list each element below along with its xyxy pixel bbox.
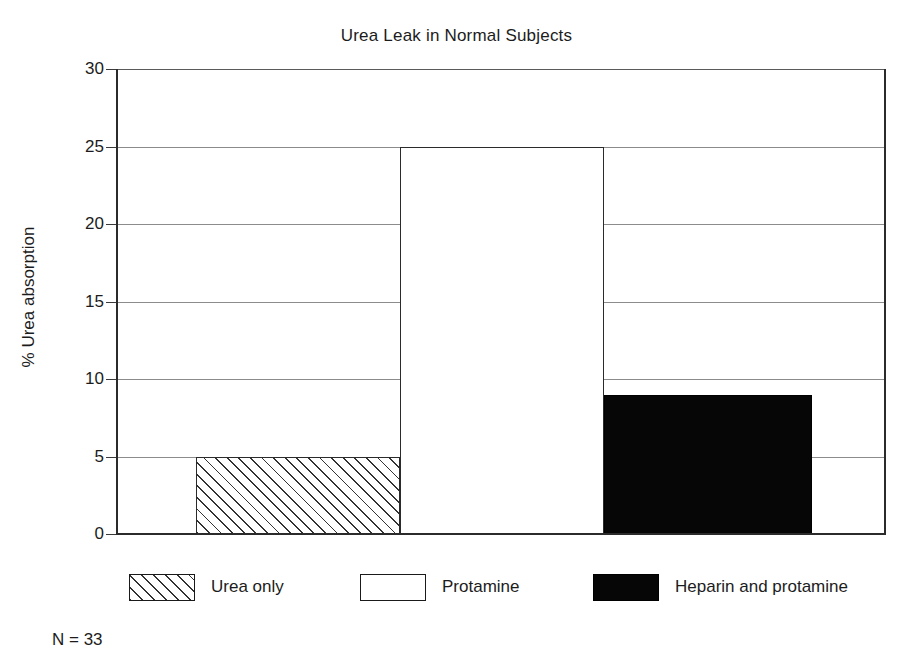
- y-axis-tick-labels: 30 25 20 15 10 5 0: [52, 69, 104, 534]
- legend-item-urea-only: Urea only: [129, 570, 284, 604]
- bar-urea-only: [196, 457, 400, 535]
- legend-label-heparin-and-protamine: Heparin and protamine: [675, 577, 848, 597]
- y-tick-label-25: 25: [60, 138, 104, 155]
- y-tick-label-30: 30: [60, 60, 104, 77]
- chart-title: Urea Leak in Normal Subjects: [0, 26, 913, 46]
- x-axis-spine: [116, 533, 886, 535]
- y-tick-label-5: 5: [60, 448, 104, 465]
- legend-swatch-protamine: [360, 574, 426, 601]
- legend-swatch-urea-only: [129, 574, 195, 601]
- legend-item-heparin-and-protamine: Heparin and protamine: [593, 570, 848, 604]
- sample-size-annotation: N = 33: [52, 630, 103, 650]
- right-spine: [884, 69, 886, 534]
- chart-legend: Urea only Protamine Heparin and protamin…: [0, 570, 913, 612]
- bar-heparin-and-protamine: [604, 395, 812, 535]
- chart-figure: Urea Leak in Normal Subjects % Urea abso…: [0, 0, 913, 664]
- gridline-30: [117, 69, 885, 70]
- plot-area: [117, 69, 885, 534]
- y-tick-label-15: 15: [60, 293, 104, 310]
- y-tick-label-0: 0: [60, 525, 104, 542]
- y-axis-spine: [116, 69, 118, 534]
- y-axis-title: % Urea absorption: [19, 87, 39, 507]
- y-tick-label-20: 20: [60, 215, 104, 232]
- y-tick-label-10: 10: [60, 370, 104, 387]
- legend-label-urea-only: Urea only: [211, 577, 284, 597]
- legend-label-protamine: Protamine: [442, 577, 519, 597]
- legend-swatch-heparin-and-protamine: [593, 574, 659, 601]
- legend-item-protamine: Protamine: [360, 570, 519, 604]
- bar-protamine: [400, 147, 604, 535]
